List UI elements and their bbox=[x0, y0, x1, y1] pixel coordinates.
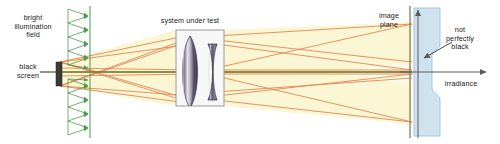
label-line: screen bbox=[2, 72, 54, 81]
label-image-plane: image plane bbox=[366, 12, 412, 29]
diagram-canvas bbox=[0, 0, 500, 144]
label-bright-illumination-field: bright illumination field bbox=[2, 14, 64, 40]
label-line: black bbox=[432, 43, 488, 52]
black-screen-bar bbox=[56, 62, 62, 86]
label-not-perfectly-black: not perfectly black bbox=[432, 26, 488, 52]
label-line: field bbox=[2, 31, 64, 40]
label-line: plane bbox=[366, 21, 412, 30]
label-black-screen: black screen bbox=[2, 63, 54, 80]
label-system-under-test: system under test bbox=[140, 17, 240, 26]
label-irradiance: irradiance bbox=[428, 80, 494, 89]
beam-envelope-fill bbox=[60, 22, 412, 124]
optical-diagram: bright illumination field black screen s… bbox=[0, 0, 500, 144]
